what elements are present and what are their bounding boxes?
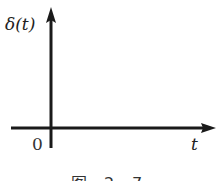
x-axis-label: t (191, 134, 198, 154)
y-axis-label: δ(t) (5, 14, 35, 34)
t-axis-arrowhead-icon (201, 123, 216, 133)
figure-caption: 图 2-7 (0, 170, 219, 181)
origin-label: 0 (32, 134, 43, 154)
